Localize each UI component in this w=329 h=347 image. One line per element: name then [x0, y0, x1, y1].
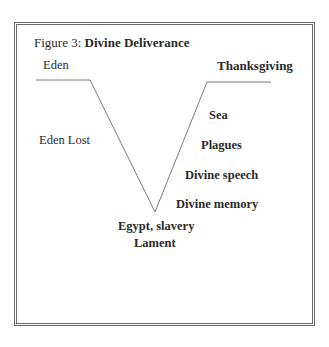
label-divine-memory: Divine memory	[176, 198, 258, 211]
label-divine-speech: Divine speech	[185, 169, 258, 182]
label-egypt-slavery: Egypt, slavery	[118, 220, 194, 233]
v-shape-diagram	[0, 0, 329, 347]
label-thanksgiving: Thanksgiving	[217, 59, 293, 72]
figure-title-prefix: Figure 3:	[34, 35, 85, 50]
figure-title-bold: Divine Deliverance	[85, 35, 190, 50]
label-lament: Lament	[134, 237, 176, 250]
label-eden-lost: Eden Lost	[39, 134, 90, 147]
label-eden: Eden	[43, 59, 69, 72]
label-sea: Sea	[209, 109, 228, 122]
figure-title: Figure 3: Divine Deliverance	[34, 36, 190, 49]
label-plagues: Plagues	[201, 139, 242, 152]
